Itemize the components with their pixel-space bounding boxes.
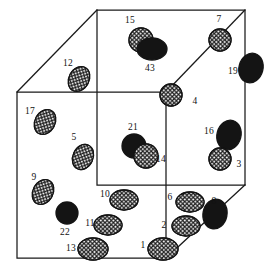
particle-label-21: 21: [128, 123, 138, 133]
particle-label-17: 17: [25, 107, 35, 117]
particle-13: [78, 238, 108, 260]
particle-hatch: [68, 141, 97, 173]
particle-label-10: 10: [100, 190, 110, 200]
particle-19: [236, 50, 267, 85]
particle-label-22: 22: [60, 228, 70, 238]
particle-hatch: [160, 84, 182, 106]
particle-label-6: 6: [168, 193, 173, 203]
particle-hatch: [209, 148, 231, 170]
particle-16: [214, 117, 245, 152]
particle-label-43: 43: [145, 64, 155, 74]
particle-label-13: 13: [66, 244, 76, 254]
particle-label-8: 8: [212, 197, 217, 207]
particle-label-9: 9: [32, 173, 37, 183]
particle-14: [134, 144, 158, 168]
particle-shape: [56, 202, 78, 224]
particle-hatch: [78, 238, 108, 260]
particle-shape: [214, 117, 245, 152]
particle-hatch: [134, 144, 158, 168]
particle-label-16: 16: [204, 127, 214, 137]
particle-label-15: 15: [125, 16, 135, 26]
particle-shape: [236, 50, 267, 85]
particle-hatch: [209, 29, 231, 51]
particle-10: [110, 190, 138, 210]
particle-4: [160, 84, 182, 106]
particle-hatch: [172, 216, 200, 236]
edge-diagonal-top-right: [166, 10, 245, 92]
particle-43: [137, 38, 167, 60]
particle-hatch: [110, 190, 138, 210]
particle-label-7: 7: [217, 15, 222, 25]
particle-hatch: [176, 192, 204, 212]
particle-hatch: [148, 238, 178, 260]
particle-3: [209, 148, 231, 170]
particle-shape: [137, 38, 167, 60]
particle-2: [172, 216, 200, 236]
particle-label-2: 2: [162, 221, 167, 231]
particle-label-5: 5: [72, 133, 77, 143]
particle-label-3: 3: [237, 160, 242, 170]
particle-6: [176, 192, 204, 212]
particle-22: [56, 202, 78, 224]
particle-7: [209, 29, 231, 51]
particle-label-12: 12: [63, 59, 73, 69]
particle-hatch: [94, 215, 122, 235]
cube-particle-diagram: 154371912417521141639221011131268: [0, 0, 280, 280]
particle-label-19: 19: [228, 67, 238, 77]
particle-1: [148, 238, 178, 260]
particle-label-11: 11: [85, 219, 95, 229]
particle-label-1: 1: [141, 241, 146, 251]
particle-label-4: 4: [193, 97, 198, 107]
particle-label-14: 14: [156, 155, 166, 165]
particle-5: [68, 141, 97, 173]
particle-11: [94, 215, 122, 235]
cube-wireframe: [0, 0, 280, 280]
